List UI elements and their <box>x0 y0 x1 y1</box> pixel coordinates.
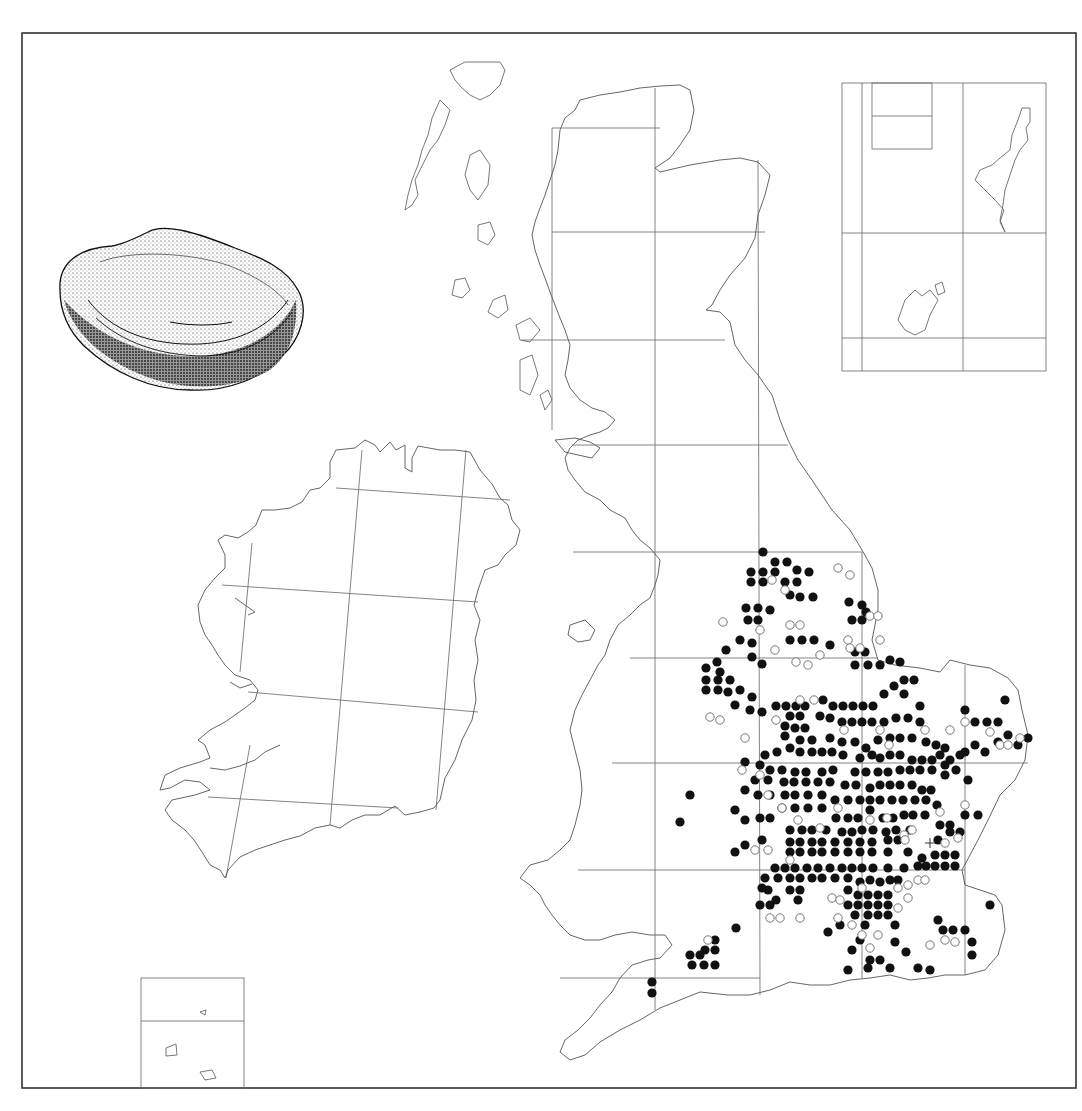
record-dot-filled <box>807 825 816 834</box>
record-dot-filled <box>899 675 908 684</box>
record-dot-filled <box>740 840 749 849</box>
record-dot-filled <box>883 847 892 856</box>
record-dot-open <box>768 576 776 584</box>
record-dot-open <box>1016 734 1024 742</box>
record-dot-filled <box>837 863 846 872</box>
record-dot-filled <box>647 988 656 997</box>
record-dot-filled <box>847 863 856 872</box>
record-dot-filled <box>753 790 762 799</box>
record-dot-filled <box>950 850 959 859</box>
record-dot-filled <box>746 567 755 576</box>
record-dot-filled <box>825 777 834 786</box>
record-dot-filled <box>765 765 774 774</box>
record-dot-filled <box>793 895 802 904</box>
record-dot-filled <box>857 863 866 872</box>
record-dot-filled <box>755 813 764 822</box>
record-dot-filled <box>770 557 779 566</box>
records-filled-layer <box>647 547 1032 997</box>
record-dot-filled <box>785 847 794 856</box>
record-dot-filled <box>838 750 847 759</box>
record-dot-filled <box>920 810 929 819</box>
record-dot-filled <box>725 675 734 684</box>
record-dot-filled <box>873 735 882 744</box>
record-dot-filled <box>837 717 846 726</box>
record-dot-filled <box>675 817 684 826</box>
record-dot-open <box>834 914 842 922</box>
record-dot-open <box>901 836 909 844</box>
record-dot-filled <box>909 675 918 684</box>
record-dot-open <box>961 801 969 809</box>
record-dot-filled <box>830 847 839 856</box>
record-dot-filled <box>907 755 916 764</box>
record-dot-filled <box>760 750 769 759</box>
record-dot-filled <box>815 711 824 720</box>
record-dot-filled <box>830 837 839 846</box>
record-dot-open <box>866 944 874 952</box>
record-dot-open <box>904 894 912 902</box>
record-dot-filled <box>785 837 794 846</box>
record-dot-filled <box>790 723 799 732</box>
record-dot-filled <box>780 721 789 730</box>
record-dot-open <box>771 646 779 654</box>
record-dot-filled <box>795 747 804 756</box>
record-dot-filled <box>1003 730 1012 739</box>
record-dot-filled <box>843 837 852 846</box>
record-dot-filled <box>843 885 852 894</box>
record-dot-filled <box>785 825 794 834</box>
record-dot-filled <box>701 685 710 694</box>
record-dot-open <box>781 586 789 594</box>
record-dot-filled <box>782 557 791 566</box>
record-dot-filled <box>885 780 894 789</box>
record-dot-filled <box>757 659 766 668</box>
record-dot-filled <box>899 689 908 698</box>
record-dot-filled <box>883 767 892 776</box>
record-dot-filled <box>967 950 976 959</box>
record-dot-filled <box>907 733 916 742</box>
record-dot-filled <box>760 873 769 882</box>
record-dot-filled <box>907 780 916 789</box>
record-dot-filled <box>701 675 710 684</box>
record-dot-filled <box>885 875 894 884</box>
record-dot-filled <box>868 701 877 710</box>
record-dot-filled <box>927 755 936 764</box>
record-dot-filled <box>940 861 949 870</box>
record-dot-filled <box>913 963 922 972</box>
record-dot-filled <box>865 805 874 814</box>
record-dot-filled <box>875 753 884 762</box>
record-dot-open <box>719 618 727 626</box>
record-dot-filled <box>712 657 721 666</box>
record-dot-open <box>764 846 772 854</box>
record-dot-open <box>846 571 854 579</box>
record-dot-filled <box>970 740 979 749</box>
record-dot-filled <box>857 825 866 834</box>
record-dot-open <box>704 936 712 944</box>
record-dot-filled <box>926 785 935 794</box>
record-dot-filled <box>867 717 876 726</box>
record-dot-filled <box>850 910 859 919</box>
record-dot-open <box>778 804 786 812</box>
record-dot-filled <box>813 777 822 786</box>
record-dot-open <box>961 718 969 726</box>
record-dot-filled <box>899 863 908 872</box>
record-dot-filled <box>879 717 888 726</box>
record-dot-filled <box>770 863 779 872</box>
record-dot-filled <box>895 657 904 666</box>
record-dot-filled <box>797 635 806 644</box>
record-dot-open <box>796 696 804 704</box>
record-dot-filled <box>873 900 882 909</box>
record-dot-filled <box>807 847 816 856</box>
record-dot-filled <box>735 685 744 694</box>
record-dot-open <box>756 771 764 779</box>
record-dot-filled <box>747 692 756 701</box>
record-dot-filled <box>745 705 754 714</box>
record-dot-filled <box>758 577 767 586</box>
record-dot-filled <box>863 910 872 919</box>
record-dot-filled <box>855 795 864 804</box>
record-dot-filled <box>740 757 749 766</box>
record-dot-open <box>786 856 794 864</box>
record-dot-filled <box>887 795 896 804</box>
record-dot-filled <box>770 567 779 576</box>
record-dot-filled <box>881 827 890 836</box>
record-dot-open <box>741 734 749 742</box>
record-dot-filled <box>960 747 969 756</box>
